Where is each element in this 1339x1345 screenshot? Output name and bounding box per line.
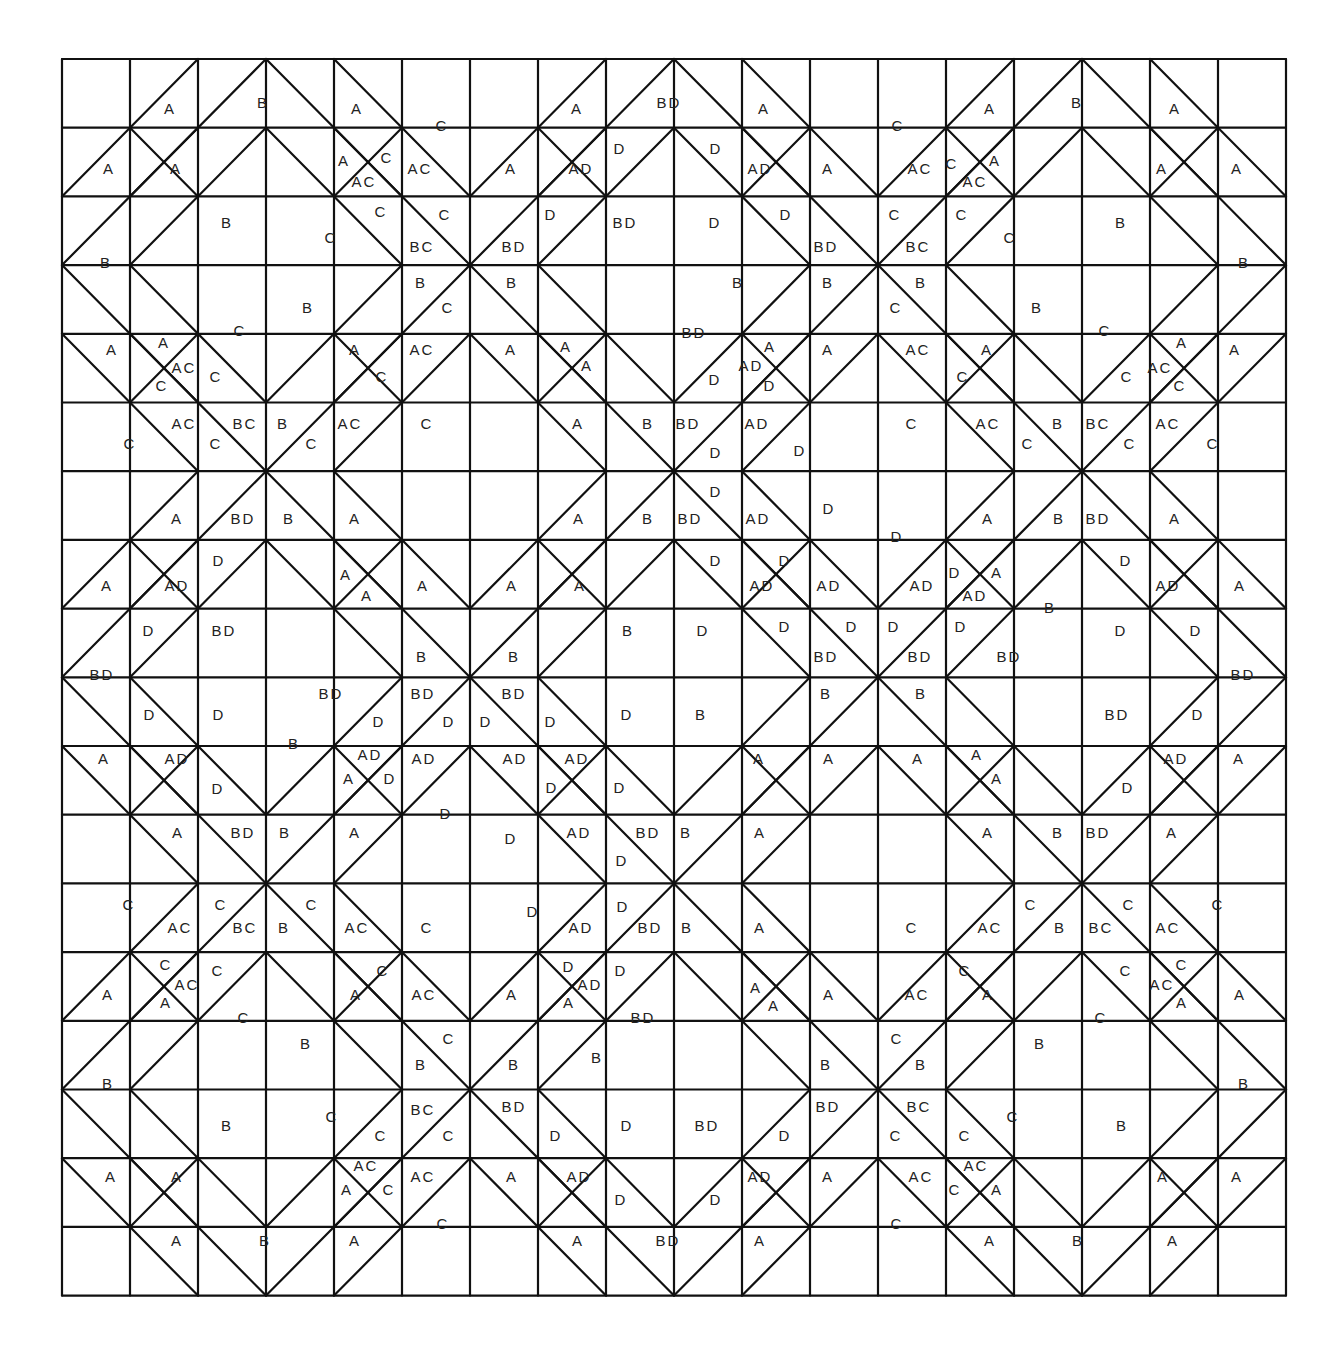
patch-label: AD [165, 577, 190, 594]
patch-label: BD [1105, 706, 1130, 723]
patch-label: C [890, 1127, 903, 1144]
patch-label: C [1004, 229, 1017, 246]
patch-label: A [764, 338, 776, 355]
patch-label: AC [410, 341, 435, 358]
patch-label: B [695, 706, 707, 723]
patch-label: C [439, 206, 452, 223]
patch-label: AD [748, 1168, 773, 1185]
patch-label: D [709, 214, 722, 231]
patch-label: D [709, 371, 722, 388]
patch-label: A [106, 341, 118, 358]
patch-label: BD [695, 1117, 720, 1134]
quilt-diagram: ABACABDACABAAAACACACAADDDADAACCAACAABCCC… [0, 0, 1339, 1345]
patch-label: A [506, 986, 518, 1003]
patch-label: C [889, 206, 902, 223]
patch-label: D [823, 500, 836, 517]
patch-label: B [915, 1056, 927, 1073]
patch-label: D [888, 618, 901, 635]
patch-label: B [416, 648, 428, 665]
patch-label: B [277, 415, 289, 432]
patch-label: C [959, 1127, 972, 1144]
patch-label: C [1124, 435, 1137, 452]
patch-label: C [377, 962, 390, 979]
patch-label: BD [613, 214, 638, 231]
patch-label: A [105, 1168, 117, 1185]
patch-label: BC [411, 1101, 436, 1118]
patch-label: AC [976, 415, 1001, 432]
patch-label: C [421, 919, 434, 936]
patch-label: D [212, 780, 225, 797]
patch-label: C [306, 896, 319, 913]
patch-label: A [338, 152, 350, 169]
patch-label: D [617, 898, 630, 915]
patch-label: C [325, 229, 338, 246]
patch-label: AC [905, 986, 930, 1003]
patch-label: B [300, 1035, 312, 1052]
patch-label: A [1169, 100, 1181, 117]
patch-label: AC [408, 160, 433, 177]
patch-label: A [984, 100, 996, 117]
patch-label: A [982, 510, 994, 527]
patch-label: D [373, 713, 386, 730]
patch-label: AC [1156, 415, 1181, 432]
patch-label: D [1115, 622, 1128, 639]
patch-label: BD [814, 238, 839, 255]
patch-label: C [959, 962, 972, 979]
patch-label: D [505, 830, 518, 847]
patch-label: BD [1086, 510, 1111, 527]
patch-label: A [823, 986, 835, 1003]
patch-label: B [915, 274, 927, 291]
patch-label: C [210, 435, 223, 452]
patch-label: AC [908, 160, 933, 177]
patch-label: A [1233, 750, 1245, 767]
patch-label: D [780, 206, 793, 223]
patch-label: AD [165, 750, 190, 767]
patch-label: A [982, 986, 994, 1003]
patch-label: AC [338, 415, 363, 432]
patch-label: A [981, 341, 993, 358]
patch-label: A [1157, 1168, 1169, 1185]
patch-label: C [946, 155, 959, 172]
patch-label: AD [567, 1168, 592, 1185]
patch-label: D [563, 958, 576, 975]
patch-label: A [754, 1232, 766, 1249]
patch-label: AD [748, 160, 773, 177]
patch-label: BD [657, 94, 682, 111]
patch-label: A [158, 334, 170, 351]
patch-label: D [614, 779, 627, 796]
patch-label: D [545, 713, 558, 730]
patch-label: D [440, 805, 453, 822]
patch-label: D [955, 618, 968, 635]
patch-label: C [212, 962, 225, 979]
patch-label: B [288, 735, 300, 752]
patch-label: A [1234, 986, 1246, 1003]
patch-label: AD [750, 577, 775, 594]
patch-label: D [213, 552, 226, 569]
patch-label: A [349, 824, 361, 841]
patch-label: AC [412, 986, 437, 1003]
patch-label: B [1052, 824, 1064, 841]
patch-label: A [170, 160, 182, 177]
patch-label: A [172, 824, 184, 841]
patch-label: AC [963, 173, 988, 190]
patch-label: A [984, 1232, 996, 1249]
patch-label: C [906, 919, 919, 936]
patch-label: C [1025, 896, 1038, 913]
patch-label: C [376, 368, 389, 385]
patch-label: AC [175, 976, 200, 993]
patch-label: BC [233, 415, 258, 432]
patch-label: A [560, 338, 572, 355]
patch-label: BD [656, 1232, 681, 1249]
patch-label: A [98, 750, 110, 767]
patch-label: A [506, 1168, 518, 1185]
patch-label: A [349, 1232, 361, 1249]
patch-label: C [375, 203, 388, 220]
patch-label: AC [168, 919, 193, 936]
patch-label: A [102, 986, 114, 1003]
patch-label: B [1238, 254, 1250, 271]
patch-label: C [1120, 962, 1133, 979]
patch-label: C [1099, 322, 1112, 339]
patch-label: A [753, 750, 765, 767]
patch-label: A [822, 341, 834, 358]
patch-label: B [822, 274, 834, 291]
